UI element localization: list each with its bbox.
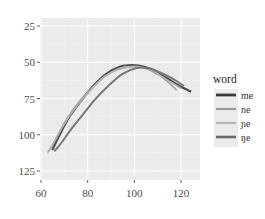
legend-title: word (213, 73, 237, 85)
legend: word meneɲeŋe (213, 73, 254, 147)
y-tick-label: 75 (24, 93, 36, 105)
legend-label: ne (241, 104, 251, 115)
y-axis: 255075100125 (19, 20, 41, 177)
x-tick-label: 60 (36, 187, 48, 199)
x-tick-label: 120 (173, 187, 190, 199)
x-tick-label: 100 (126, 187, 143, 199)
legend-label: me (241, 90, 254, 101)
x-axis: 6080100120 (36, 180, 190, 199)
legend-label: ɲe (240, 118, 251, 129)
y-tick-label: 100 (19, 129, 36, 141)
y-tick-label: 50 (24, 56, 36, 68)
x-tick-label: 80 (82, 187, 94, 199)
y-tick-label: 125 (19, 165, 36, 177)
legend-label: ŋe (241, 132, 251, 143)
y-tick-label: 25 (24, 20, 36, 32)
chart: 6080100120 255075100125 word meneɲeŋe (0, 0, 265, 219)
